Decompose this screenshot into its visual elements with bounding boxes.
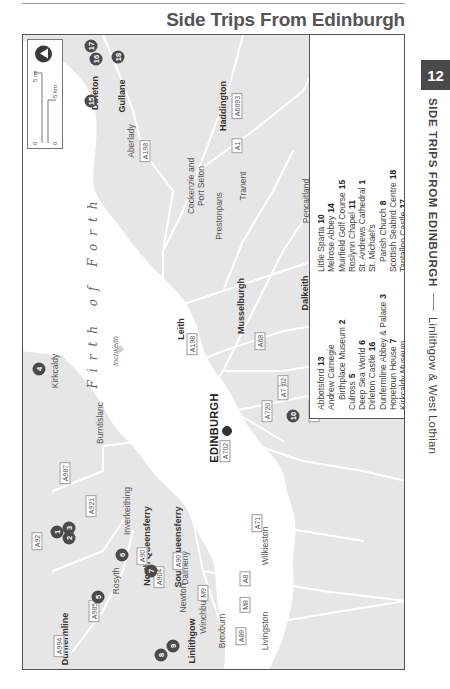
legend-item: St. Michael's [367,170,377,272]
legend-item: Little Sparta10 [316,170,326,272]
legend-item: St. Andrews Cathedral1 [357,170,367,272]
road-a6093: A6093 [232,93,243,119]
running-head: SIDE TRIPS FROM EDINBURGH Linlithgow & W… [427,98,439,454]
marker-15[interactable]: 15 [85,95,98,108]
legend-item: Tantallon Castle17 [398,170,405,272]
legend-item: Parish Church8 [378,170,388,272]
town-livingston: Livingston [260,612,270,650]
road-a90-south: A90 [173,552,184,570]
legend-column-1: Abbotsford13 Andrew Carnegie Birthplace … [316,294,400,410]
legend: Abbotsford13 Andrew Carnegie Birthplace … [309,35,405,419]
capital-label: EDINBURGH [208,393,220,462]
town-broxburn: Broxburn [217,614,227,649]
marker-6[interactable]: 6 [116,549,129,562]
town-wilkieston: Wilkieston [260,527,270,566]
road-a198-leith: A198 [187,333,198,355]
north-arrow-icon [35,46,52,63]
sea-label: Firth of Forth [86,194,100,389]
town-tranent: Tranent [238,172,248,201]
road-a921: A921 [86,495,97,517]
town-musselburgh: Musselburgh [236,278,246,334]
legend-item: Andrew Carnegie [326,294,336,410]
road-m9: M9 [198,585,209,601]
road-a8: A8 [240,572,251,587]
town-newton: Newton [178,584,188,613]
legend-item: Hopetoun House7 [388,294,398,410]
map-canvas: Firth of Forth Inchkeith EDINBURGH Dirle… [23,35,405,670]
town-haddington: Haddington [218,81,228,131]
town-gullane: Gullane [117,79,127,112]
town-cockenzie: Cockenzie and [186,158,196,214]
page-title: Side Trips From Edinburgh [166,9,405,31]
road-a71: A71 [252,514,263,532]
marker-3[interactable]: 3 [63,522,76,535]
chapter-tab: 12 [421,60,450,90]
road-a720: A720 [262,400,273,422]
town-rosyth: Rosyth [111,568,121,594]
legend-item: Melrose Abbey14 [326,170,336,272]
road-a1: A1 [232,139,243,154]
marker-4[interactable]: 4 [33,363,46,376]
town-leith: Leith [176,318,186,340]
marker-8[interactable]: 8 [155,649,168,662]
road-a90-north: A90 [137,547,148,565]
town-linlithgow: Linlithgow [187,619,197,664]
legend-item: Birthplace Museum2 [337,294,347,410]
top-rule [22,3,405,4]
road-a987: A987 [60,462,71,484]
legend-item: Muirfield Golf Course15 [337,170,347,272]
road-a198-east: A198 [140,140,151,162]
legend-item: Abbotsford13 [316,294,326,410]
running-head-subsection: Linlithgow & West Lothian [427,317,439,454]
marker-18[interactable]: 18 [112,51,125,64]
town-kirkcaldy: Kirkcaldy [50,354,60,388]
town-inverkeithing: Inverkeithing [122,487,132,535]
road-a702-north: A702 [220,440,231,462]
road-a92: A92 [32,532,43,550]
marker-5[interactable]: 5 [92,591,105,604]
marker-9[interactable]: 9 [167,640,180,653]
legend-item: Roslynn Chapel11 [347,170,357,272]
legend-item: Dunfermline Abbey & Palace3 [378,294,388,410]
scale-zero-km: 0 [52,142,58,145]
marker-10[interactable]: 10 [287,410,300,423]
legend-item: Scottish Seabird Centre18 [388,170,398,272]
marker-7[interactable]: 7 [145,565,158,578]
scale-zero-mi: 0 [32,142,38,145]
road-a68-north: A68 [255,332,266,350]
scale-miles: 5 mi [32,71,38,82]
town-burntislanc: Burntislanc [95,402,105,444]
scale-bar: 0 5 mi 0 5 km [27,39,63,149]
scale-km: 5 km [52,85,58,98]
road-a89: A89 [236,627,247,645]
legend-item: Culross5 [347,294,357,410]
legend-item: Kirkcaldy Museum [398,294,405,410]
running-head-section: SIDE TRIPS FROM EDINBURGH [427,98,439,287]
town-prestonpans: Prestonpans [214,192,224,240]
legend-column-2: Little Sparta10 Melrose Abbey14 Muirfiel… [316,170,400,272]
capital-star-icon [222,426,232,436]
marker-16[interactable]: 16 [90,53,103,66]
road-a994: A994 [54,635,65,657]
town-port-seton: Port Seton [196,166,206,206]
road-a7-north: A7 [278,386,289,401]
running-head-divider [433,293,434,311]
legend-item: Dirleton Castle16 [367,294,377,410]
map-frame: Firth of Forth Inchkeith EDINBURGH Dirle… [22,34,405,670]
legend-item: Deep Sea World6 [357,294,367,410]
road-m8: M8 [240,597,251,613]
island-label: Inchkeith [111,336,120,366]
town-aberlady: Aberlady [126,124,136,158]
marker-17[interactable]: 17 [85,40,98,53]
